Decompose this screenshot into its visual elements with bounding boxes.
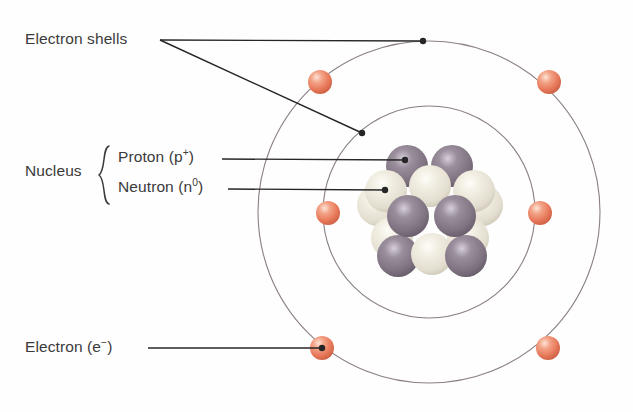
electron-particle — [537, 70, 561, 94]
leader-dot — [382, 187, 388, 193]
leader-dot — [359, 130, 365, 136]
nucleus-cluster — [357, 145, 503, 277]
leader-dot — [420, 38, 426, 44]
neutron-label: Neutron (n0) — [118, 178, 203, 196]
electron-particle — [316, 201, 340, 225]
electron-label: Electron (e−) — [25, 338, 112, 356]
leader-dot — [402, 157, 408, 163]
proton-label-close: ) — [189, 148, 194, 165]
proton-leader-line — [222, 159, 405, 160]
nucleon-proton — [387, 195, 429, 237]
neutron-label-text: Neutron (n — [118, 178, 192, 195]
electron-label-text: Electron (e — [25, 338, 101, 355]
electron-shells-leader-outer — [160, 40, 423, 41]
nucleon-proton — [434, 195, 476, 237]
neutron-label-close: ) — [198, 178, 203, 195]
inner-shell-ring — [323, 106, 535, 318]
electron-label-close: ) — [107, 338, 112, 355]
nucleon-proton — [445, 235, 487, 277]
proton-label-text: Proton (p — [118, 148, 183, 165]
electron-particle — [536, 336, 560, 360]
neutron-leader-line — [228, 189, 385, 190]
atom-diagram-figure: Electron shells Nucleus Proton (p+) Neut… — [0, 0, 633, 412]
electron-particle — [308, 70, 332, 94]
electron-particle — [528, 201, 552, 225]
nucleus-brace — [99, 146, 109, 204]
electron-shells-label: Electron shells — [25, 30, 127, 48]
electron-shells-leader-inner — [160, 40, 362, 133]
nucleus-label: Nucleus — [25, 162, 82, 180]
proton-label: Proton (p+) — [118, 148, 194, 166]
leader-dot — [319, 345, 325, 351]
